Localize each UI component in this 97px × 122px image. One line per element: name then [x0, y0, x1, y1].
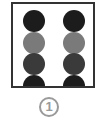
- option-number-badge: 1: [39, 97, 59, 117]
- circle-left-row-4-partial: [23, 75, 45, 88]
- circle-right-row-4-partial: [63, 75, 85, 88]
- circle-left-row-2: [23, 32, 45, 54]
- circle-left-row-3: [23, 53, 45, 75]
- circle-grid-frame: [11, 2, 95, 88]
- circle-right-row-1: [63, 10, 85, 32]
- circle-left-row-1: [23, 10, 45, 32]
- circle-right-row-2: [63, 32, 85, 54]
- circle-right-row-3: [63, 53, 85, 75]
- figure: 1: [0, 0, 97, 122]
